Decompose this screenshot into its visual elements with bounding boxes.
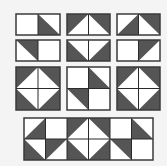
puzzle-figure: .d{fill:#555555;} .w{fill:#ffffff;} .ln{…	[0, 0, 167, 166]
option-1[interactable]	[16, 14, 60, 61]
option-5[interactable]	[67, 67, 110, 110]
option-6[interactable]	[117, 67, 160, 110]
option-2[interactable]	[67, 14, 110, 61]
option-4[interactable]	[16, 67, 60, 110]
option-3[interactable]	[117, 14, 160, 61]
pattern-strip	[24, 118, 153, 160]
